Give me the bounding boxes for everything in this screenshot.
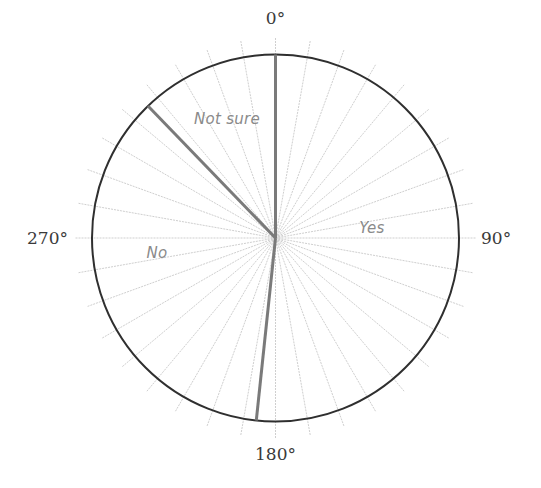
- slice-label-not-sure: Not sure: [194, 110, 260, 128]
- guide-line: [276, 238, 464, 306]
- slice-label-yes: Yes: [359, 219, 384, 237]
- axis-label-270: 270°: [27, 228, 68, 248]
- guide-line: [122, 238, 275, 367]
- guide-line: [276, 238, 344, 426]
- pie-chart: 0° 90° 180° 270° Not sure Yes No: [0, 0, 541, 488]
- guide-line: [207, 50, 275, 238]
- axis-label-90: 90°: [481, 228, 511, 248]
- axis-label-180: 180°: [255, 444, 296, 464]
- guide-line: [276, 238, 405, 391]
- slice-label-no: No: [147, 244, 168, 262]
- guide-line: [88, 238, 276, 306]
- guide-line: [276, 50, 344, 238]
- guide-line: [276, 238, 429, 367]
- guide-line: [122, 109, 275, 238]
- guide-line: [276, 85, 405, 238]
- guide-line: [88, 170, 276, 238]
- guide-line: [147, 85, 276, 238]
- guide-line: [276, 109, 429, 238]
- axis-label-0: 0°: [266, 8, 285, 28]
